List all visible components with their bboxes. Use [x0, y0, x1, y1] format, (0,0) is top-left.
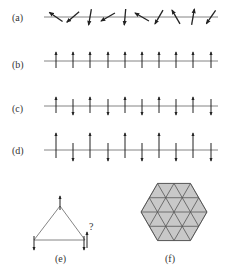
label-a: (a) [12, 12, 23, 24]
panel-d-ferrimagnet [44, 133, 218, 161]
label-e: (e) [55, 253, 66, 265]
panel-c-antiferromagnet [44, 97, 218, 115]
question-mark: ? [89, 221, 94, 232]
label-b: (b) [12, 59, 24, 71]
panel-e-frustrated-triangle: ? [34, 196, 94, 250]
panel-b-ferromagnet [44, 52, 218, 68]
panel-a-random-spins [44, 9, 218, 25]
label-f: (f) [165, 253, 175, 265]
label-c: (c) [12, 103, 23, 115]
spin-arrow [124, 9, 125, 25]
panel-f-triangular-lattice [78, 160, 226, 264]
figure: (a) (b) (c) (d) (e) (f) ? [0, 0, 226, 272]
label-d: (d) [12, 145, 24, 157]
